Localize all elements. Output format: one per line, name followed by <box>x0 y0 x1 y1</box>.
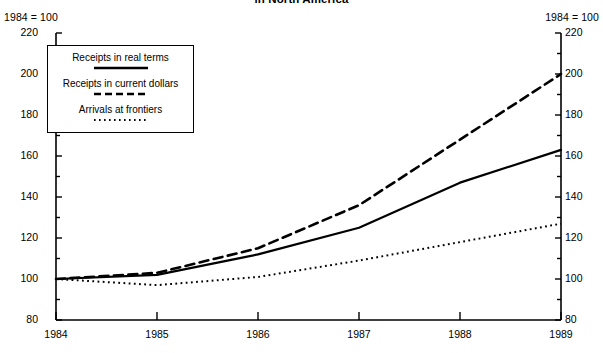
legend: Receipts in real terms Receipts in curre… <box>47 45 194 133</box>
y-tick-label-right: 180 <box>565 109 599 120</box>
y-tick-label-left: 100 <box>4 273 38 284</box>
series-line-solid <box>56 150 561 279</box>
legend-label: Receipts in real terms <box>48 52 193 64</box>
legend-label: Receipts in current dollars <box>48 78 193 90</box>
x-tick-label: 1985 <box>127 329 187 340</box>
y-tick-label-left: 180 <box>4 109 38 120</box>
x-tick-label: 1984 <box>26 329 86 340</box>
y-tick-label-right: 220 <box>565 27 599 38</box>
legend-entry-receipts-current: Receipts in current dollars <box>48 78 193 96</box>
y-tick-label-right: 160 <box>565 150 599 161</box>
y-tick-label-right: 120 <box>565 232 599 243</box>
x-tick-label: 1986 <box>228 329 288 340</box>
y-tick-label-left: 160 <box>4 150 38 161</box>
y-tick-label-left: 140 <box>4 191 38 202</box>
y-tick-label-right: 100 <box>565 273 599 284</box>
legend-sample-dashed <box>94 92 148 96</box>
y-tick-label-left: 220 <box>4 27 38 38</box>
chart-container: in North America 1984 = 100 1984 = 100 2… <box>0 0 603 353</box>
legend-sample-dotted <box>94 118 148 122</box>
y-tick-label-left: 120 <box>4 232 38 243</box>
y-tick-label-left: 200 <box>4 68 38 79</box>
legend-sample-solid <box>94 66 148 70</box>
x-tick-label: 1989 <box>531 329 591 340</box>
x-tick-label: 1987 <box>329 329 389 340</box>
legend-entry-arrivals: Arrivals at frontiers <box>48 104 193 122</box>
x-tick-label: 1988 <box>430 329 490 340</box>
y-tick-label-left: 80 <box>4 314 38 325</box>
y-tick-label-right: 200 <box>565 68 599 79</box>
legend-label: Arrivals at frontiers <box>48 104 193 116</box>
y-tick-label-right: 80 <box>565 314 599 325</box>
legend-entry-receipts-real: Receipts in real terms <box>48 52 193 70</box>
y-tick-label-right: 140 <box>565 191 599 202</box>
